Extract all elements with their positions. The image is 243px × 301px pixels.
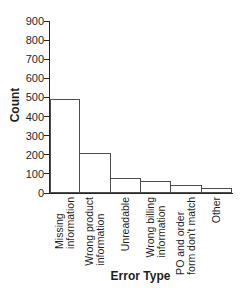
y-tick-label: 500 bbox=[2, 91, 44, 103]
y-tick-label: 800 bbox=[2, 34, 44, 46]
bar-1 bbox=[50, 99, 80, 193]
x-category-cell: Wrong product information bbox=[80, 197, 110, 266]
x-category-label: PO and order form don't match bbox=[175, 197, 197, 275]
x-category-label: Unreadable bbox=[120, 197, 131, 251]
bar-4 bbox=[141, 181, 171, 193]
x-category-cell: Wrong billing information bbox=[141, 197, 171, 258]
x-category-cell: Unreadable bbox=[111, 197, 141, 251]
y-tick-label: 600 bbox=[2, 72, 44, 84]
y-tick-label: 900 bbox=[2, 15, 44, 27]
x-category-label: Missing information bbox=[54, 197, 76, 249]
x-category-label: Wrong billing information bbox=[145, 197, 167, 258]
y-axis-line bbox=[49, 21, 50, 194]
bar-3 bbox=[111, 178, 141, 193]
y-tick-label: 300 bbox=[2, 130, 44, 142]
x-category-cell: Other bbox=[202, 197, 232, 223]
x-category-label: Other bbox=[211, 197, 222, 223]
bar-5 bbox=[171, 185, 201, 193]
y-tick-label: 0 bbox=[2, 187, 44, 199]
pareto-chart: Count 0100200300400500600700800900 Missi… bbox=[0, 0, 243, 301]
y-tick-label: 700 bbox=[2, 53, 44, 65]
y-tick-label: 200 bbox=[2, 149, 44, 161]
y-tick-label: 100 bbox=[2, 168, 44, 180]
x-category-cell: PO and order form don't match bbox=[171, 197, 201, 275]
x-category-cell: Missing information bbox=[50, 197, 80, 249]
bar-2 bbox=[80, 153, 110, 193]
x-axis-title: Error Type bbox=[49, 270, 232, 283]
y-tick-label: 400 bbox=[2, 111, 44, 123]
x-axis-line bbox=[49, 193, 233, 194]
x-category-label: Wrong product information bbox=[84, 197, 106, 266]
